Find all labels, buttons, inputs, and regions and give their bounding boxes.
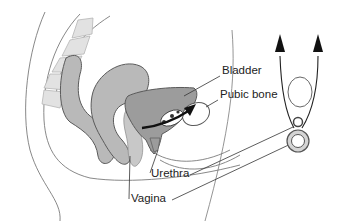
arrow-up-icon bbox=[275, 34, 285, 52]
pelvic-anatomy-diagram bbox=[0, 0, 339, 221]
inset-device bbox=[275, 34, 323, 152]
label-pubic-bone: Pubic bone bbox=[220, 89, 278, 101]
label-urethra: Urethra bbox=[151, 168, 189, 180]
label-bladder: Bladder bbox=[222, 65, 262, 77]
arrow-up-icon bbox=[313, 34, 323, 52]
label-vagina: Vagina bbox=[131, 193, 166, 205]
